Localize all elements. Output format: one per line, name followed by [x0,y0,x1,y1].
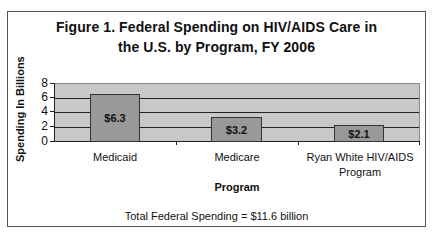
bar-medicare: $3.2 [211,117,262,142]
y-tick-label: 2 [36,120,48,132]
y-tick-label: 6 [36,91,48,103]
y-tick-label: 4 [36,105,48,117]
chart-title: Figure 1. Federal Spending on HIV/AIDS C… [7,17,426,57]
y-tick [50,141,54,142]
bar-value-label: $6.3 [104,112,125,124]
x-axis-label: Program [54,181,420,193]
x-tick [298,141,299,145]
y-tick-label: 8 [36,77,48,89]
bar-ryan-white: $2.1 [334,125,384,142]
y-tick [50,111,54,112]
category-label-medicaid: Medicaid [54,150,176,165]
category-label-medicare: Medicare [176,150,298,165]
y-tick [50,97,54,98]
y-axis-label: Spending In Billions [14,62,28,162]
y-tick [50,126,54,127]
category-label-ryan-white: Ryan White HIV/AIDS Program [296,150,424,180]
category-label-line: Program [296,165,424,180]
bar-value-label: $3.2 [226,124,247,136]
bar-value-label: $2.1 [348,128,369,140]
y-tick [50,83,54,84]
chart-title-line-1: Figure 1. Federal Spending on HIV/AIDS C… [7,17,426,37]
y-tick-label: 0 [36,135,48,147]
total-spending-note: Total Federal Spending = $11.6 billion [7,210,426,222]
y-axis [54,83,55,142]
category-label-line: Ryan White HIV/AIDS [296,150,424,165]
chart-title-line-2: the U.S. by Program, FY 2006 [7,37,426,57]
x-tick [419,141,420,145]
bar-medicaid: $6.3 [90,94,140,142]
x-tick [176,141,177,145]
